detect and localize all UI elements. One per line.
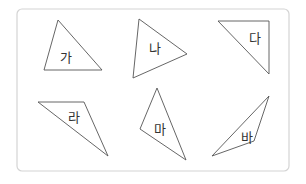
triangle-label: 바 xyxy=(241,130,253,145)
triangles-diagram: 가나다라마바 xyxy=(0,0,306,184)
triangle-3 xyxy=(218,21,269,74)
triangle-label: 나 xyxy=(149,41,161,56)
triangle-label: 라 xyxy=(68,110,80,125)
triangle-label: 다 xyxy=(249,31,261,46)
triangle-6 xyxy=(212,96,269,156)
triangle-label: 마 xyxy=(154,122,166,137)
triangle-label: 가 xyxy=(60,50,72,65)
triangle-1 xyxy=(44,20,102,70)
